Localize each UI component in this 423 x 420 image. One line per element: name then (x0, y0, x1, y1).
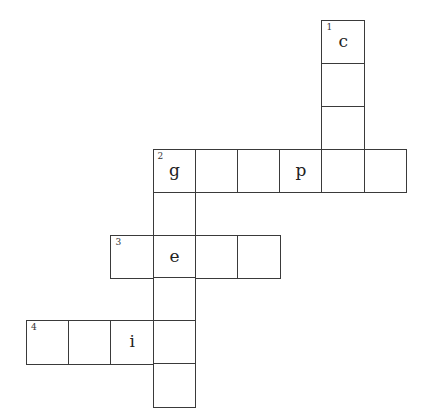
crossword-cell[interactable] (153, 277, 197, 321)
clue-number: 3 (115, 238, 121, 247)
cell-letter: p (280, 162, 322, 179)
crossword-cell[interactable] (237, 149, 281, 193)
cell-letter: i (111, 334, 153, 351)
crossword-cell[interactable] (195, 235, 239, 279)
crossword-cell[interactable] (153, 192, 197, 236)
crossword-cell[interactable] (153, 363, 197, 407)
cell-letter: c (322, 33, 364, 50)
crossword-cell[interactable] (321, 63, 365, 107)
crossword-cell[interactable]: 3 (110, 235, 154, 279)
clue-number: 4 (31, 323, 37, 332)
crossword-cell[interactable]: i (110, 320, 154, 364)
cell-letter: e (154, 248, 196, 265)
crossword-cell[interactable]: 4 (26, 320, 70, 364)
crossword-cell[interactable] (237, 235, 281, 279)
crossword-cell[interactable]: 1c (321, 20, 365, 64)
crossword-grid: 1c2gp3e4i (0, 0, 423, 420)
crossword-cell[interactable]: e (153, 235, 197, 279)
clue-number: 1 (326, 23, 332, 32)
crossword-cell[interactable] (68, 320, 112, 364)
cell-letter: g (154, 162, 196, 179)
crossword-cell[interactable]: p (279, 149, 323, 193)
crossword-cell[interactable] (321, 106, 365, 150)
crossword-cell[interactable]: 2g (153, 149, 197, 193)
clue-number: 2 (158, 152, 164, 161)
crossword-cell[interactable] (364, 149, 408, 193)
crossword-cell[interactable] (321, 149, 365, 193)
crossword-cell[interactable] (195, 149, 239, 193)
crossword-cell[interactable] (153, 320, 197, 364)
